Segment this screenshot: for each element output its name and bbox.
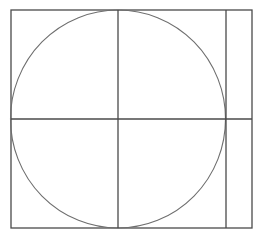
geometric-diagram — [0, 0, 263, 238]
